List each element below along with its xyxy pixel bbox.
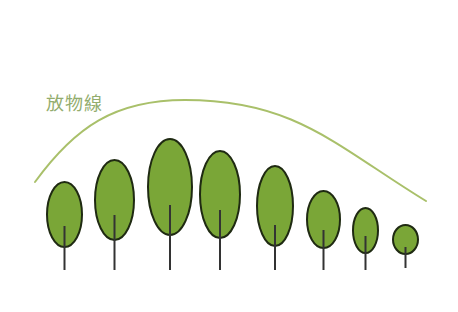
tree-1 [47, 182, 82, 270]
tree-3 [148, 139, 192, 270]
tree-4 [200, 151, 240, 270]
tree-5 [257, 166, 293, 270]
parabola-tree-diagram [0, 0, 458, 312]
tree-6 [307, 191, 340, 270]
tree-8 [393, 225, 418, 268]
tree-7 [353, 208, 378, 270]
parabola-label: 放物線 [46, 89, 103, 115]
tree-2 [95, 160, 134, 270]
